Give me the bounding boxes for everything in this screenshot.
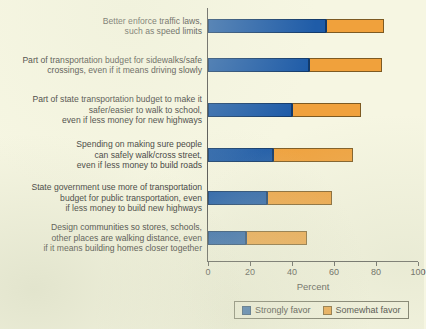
category-label-line: budget for public transportation, even — [6, 193, 202, 203]
stacked-bar[interactable] — [208, 19, 384, 33]
x-axis-tick — [418, 262, 419, 266]
stacked-bar[interactable] — [208, 58, 382, 72]
category-label-line: can safely walk/cross street, — [6, 150, 202, 160]
x-axis-line — [207, 261, 418, 262]
chart-row: Spending on making sure peoplecan safely… — [0, 132, 424, 172]
x-axis-tick — [250, 262, 251, 266]
category-label: Part of transportation budget for sidewa… — [6, 55, 202, 76]
bar-segment-strongly-favor[interactable] — [208, 148, 273, 162]
category-label-line: if it means building homes closer togeth… — [6, 243, 202, 253]
category-label: Design communities so stores, schools,ot… — [6, 222, 202, 253]
bar-segment-strongly-favor[interactable] — [208, 58, 309, 72]
stacked-bar[interactable] — [208, 103, 361, 117]
x-axis-tick — [376, 262, 377, 266]
chart-row: State government use more of transportat… — [0, 176, 424, 216]
x-axis-tick-label: 60 — [329, 267, 339, 277]
x-axis-tick — [292, 262, 293, 266]
bar-segment-strongly-favor[interactable] — [208, 231, 246, 245]
x-axis-title: Percent — [208, 281, 418, 292]
x-axis-tick-label: 80 — [371, 267, 381, 277]
bar-segment-somewhat-favor[interactable] — [292, 103, 361, 117]
x-axis-tick-label: 40 — [287, 267, 297, 277]
category-label: Spending on making sure peoplecan safely… — [6, 139, 202, 170]
legend-item-strongly-favor[interactable]: Strongly favor — [242, 305, 311, 315]
category-label: State government use more of transportat… — [6, 182, 202, 213]
category-label-line: other places are walking distance, even — [6, 233, 202, 243]
bar-segment-somewhat-favor[interactable] — [246, 231, 307, 245]
stacked-bar[interactable] — [208, 191, 332, 205]
chart-row: Better enforce traffic laws,such as spee… — [0, 8, 424, 48]
x-axis-tick-label: 20 — [245, 267, 255, 277]
bar-segment-strongly-favor[interactable] — [208, 19, 326, 33]
legend-label-strongly-favor: Strongly favor — [255, 305, 311, 315]
x-axis-tick — [334, 262, 335, 266]
category-label-line: such as speed limits — [6, 26, 202, 36]
chart-row: Part of state transportation budget to m… — [0, 88, 424, 128]
category-label-line: safer/easier to walk to school, — [6, 105, 202, 115]
category-label: Part of state transportation budget to m… — [6, 94, 202, 125]
legend-swatch-strongly-favor — [242, 306, 251, 315]
category-label-line: Better enforce traffic laws, — [6, 16, 202, 26]
category-label-line: if less money to build new highways — [6, 203, 202, 213]
category-label-line: Part of state transportation budget to m… — [6, 94, 202, 104]
bar-segment-somewhat-favor[interactable] — [309, 58, 383, 72]
category-label-line: even if less money to build roads — [6, 160, 202, 170]
x-axis-tick-label: 0 — [205, 267, 210, 277]
bar-segment-strongly-favor[interactable] — [208, 103, 292, 117]
legend-item-somewhat-favor[interactable]: Somewhat favor — [323, 305, 401, 315]
bar-segment-somewhat-favor[interactable] — [267, 191, 332, 205]
chart-row: Part of transportation budget for sidewa… — [0, 48, 424, 88]
chart-row: Design communities so stores, schools,ot… — [0, 216, 424, 256]
category-label-line: State government use more of transportat… — [6, 182, 202, 192]
legend-label-somewhat-favor: Somewhat favor — [336, 305, 401, 315]
category-label: Better enforce traffic laws,such as spee… — [6, 16, 202, 37]
x-axis-tick-label: 100 — [410, 267, 425, 277]
category-label-line: Part of transportation budget for sidewa… — [6, 55, 202, 65]
chart-legend: Strongly favor Somewhat favor — [234, 301, 409, 319]
category-label-line: crossings, even if it means driving slow… — [6, 65, 202, 75]
stacked-bar[interactable] — [208, 148, 353, 162]
stacked-bar[interactable] — [208, 231, 307, 245]
category-label-line: even if less money for new highways — [6, 115, 202, 125]
bar-segment-strongly-favor[interactable] — [208, 191, 267, 205]
category-label-line: Spending on making sure people — [6, 139, 202, 149]
y-axis-line — [207, 8, 208, 261]
category-label-line: Design communities so stores, schools, — [6, 222, 202, 232]
x-axis-tick — [208, 262, 209, 266]
bar-segment-somewhat-favor[interactable] — [273, 148, 353, 162]
bar-segment-somewhat-favor[interactable] — [326, 19, 385, 33]
legend-swatch-somewhat-favor — [323, 306, 332, 315]
